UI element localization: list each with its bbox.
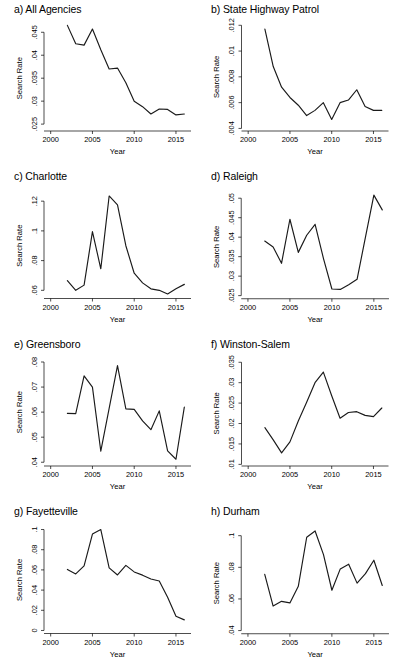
x-tick-label: 2005: [84, 135, 100, 144]
y-tick-label: .02: [228, 418, 237, 428]
x-tick-label: 2000: [240, 135, 256, 144]
y-tick-label: .008: [228, 70, 237, 84]
chart-panel-e: e) Greensboro.04.05.06.07.08200020052010…: [0, 335, 197, 502]
x-tick-label: 2000: [42, 470, 58, 479]
series-line: [67, 530, 184, 620]
x-tick-label: 2000: [240, 303, 257, 312]
x-axis-label: Year: [110, 650, 126, 659]
y-axis-label: Search Rate: [212, 226, 221, 268]
y-tick-label: .025: [227, 288, 236, 302]
y-tick-label: .12: [30, 196, 39, 206]
y-axis-label: Search Rate: [15, 225, 24, 267]
x-axis-label: Year: [110, 482, 126, 491]
x-tick-label: 2000: [240, 470, 256, 479]
y-tick-label: .04: [227, 625, 236, 635]
series-line: [67, 196, 184, 294]
x-tick-label: 2005: [84, 638, 100, 647]
x-tick-label: 2015: [168, 470, 184, 479]
series-line: [265, 29, 382, 119]
y-tick-label: .08: [30, 545, 39, 555]
x-axis-label: Year: [110, 315, 126, 324]
y-tick-label: .035: [228, 355, 237, 369]
cropped-legend-strip: [0, 661, 395, 670]
y-tick-label: .07: [30, 382, 39, 392]
y-tick-label: .05: [227, 193, 236, 203]
x-tick-label: 2010: [324, 638, 341, 647]
x-tick-label: 2005: [84, 470, 100, 479]
y-tick-label: .025: [228, 396, 237, 410]
x-tick-label: 2005: [282, 638, 299, 647]
y-tick-label: .01: [228, 459, 237, 469]
x-tick-label: 2015: [365, 135, 381, 144]
plot-area: .025.03.035.04.045.052000200520102015Yea…: [197, 167, 395, 335]
x-tick-label: 2015: [168, 638, 184, 647]
x-tick-label: 2015: [365, 470, 381, 479]
y-tick-label: .03: [227, 271, 236, 281]
y-tick-label: .06: [30, 565, 39, 575]
y-tick-label: .035: [30, 71, 39, 85]
x-tick-label: 2005: [282, 135, 298, 144]
y-tick-label: .08: [30, 255, 39, 265]
y-tick-label: .03: [30, 96, 39, 106]
plot-area: .04.06.08.12000200520102015YearSearch Ra…: [197, 502, 395, 670]
x-tick-label: 2005: [282, 303, 299, 312]
plot-area: .025.03.035.04.0452000200520102015YearSe…: [0, 0, 197, 167]
y-axis-label: Search Rate: [15, 559, 24, 601]
x-tick-label: 2015: [168, 135, 184, 144]
y-tick-label: .04: [30, 457, 39, 467]
x-axis-label: Year: [307, 147, 323, 156]
x-axis-label: Year: [307, 650, 323, 659]
x-tick-label: 2010: [324, 303, 341, 312]
chart-panel-f: f) Winston-Salem.01.015.02.025.03.035200…: [197, 335, 395, 502]
y-tick-label: .05: [30, 432, 39, 442]
y-tick-label: .04: [30, 50, 39, 60]
plot-area: .01.015.02.025.03.0352000200520102015Yea…: [197, 335, 395, 502]
chart-panel-d: d) Raleigh.025.03.035.04.045.05200020052…: [197, 167, 395, 335]
chart-panel-c: c) Charlotte.06.08.1.122000200520102015Y…: [0, 167, 197, 335]
y-tick-label: .06: [30, 285, 39, 295]
x-tick-label: 2015: [366, 303, 383, 312]
x-tick-label: 2010: [126, 638, 142, 647]
x-axis-label: Year: [307, 482, 323, 491]
y-axis-label: Search Rate: [15, 57, 24, 99]
y-tick-label: .035: [227, 249, 236, 263]
x-tick-label: 2015: [366, 638, 383, 647]
y-tick-label: .012: [228, 18, 237, 32]
plot-area: .04.05.06.07.082000200520102015YearSearc…: [0, 335, 197, 502]
x-tick-label: 2005: [84, 303, 100, 312]
y-tick-label: .06: [227, 594, 236, 604]
x-tick-label: 2010: [126, 135, 142, 144]
x-tick-label: 2015: [168, 303, 184, 312]
chart-panel-b: b) State Highway Patrol.004.006.008.01.0…: [197, 0, 395, 167]
series-line: [265, 372, 382, 453]
x-tick-label: 2000: [42, 303, 58, 312]
series-line: [67, 25, 184, 115]
y-tick-label: .04: [30, 585, 39, 595]
y-axis-label: Search Rate: [15, 391, 24, 433]
x-axis-label: Year: [307, 315, 323, 324]
y-tick-label: .06: [30, 407, 39, 417]
x-tick-label: 2000: [240, 638, 257, 647]
x-tick-label: 2000: [42, 135, 58, 144]
y-tick-label: .1: [227, 533, 236, 539]
x-tick-label: 2010: [126, 303, 142, 312]
y-tick-label: .08: [30, 357, 39, 367]
y-axis-label: Search Rate: [212, 562, 221, 604]
x-axis-label: Year: [110, 147, 126, 156]
plot-area: 0.02.04.06.08.12000200520102015YearSearc…: [0, 502, 197, 670]
y-tick-label: .04: [227, 232, 236, 242]
chart-panel-a: a) All Agencies.025.03.035.04.0452000200…: [0, 0, 197, 167]
series-line: [67, 366, 184, 460]
y-tick-label: .004: [228, 121, 237, 135]
y-axis-label: Search Rate: [213, 56, 222, 98]
y-axis-label: Search Rate: [213, 392, 222, 434]
y-tick-label: .045: [30, 25, 39, 39]
series-line: [265, 195, 383, 289]
y-tick-label: .025: [30, 117, 39, 131]
series-line: [265, 531, 383, 606]
plot-area: .06.08.1.122000200520102015YearSearch Ra…: [0, 167, 197, 335]
x-tick-label: 2010: [323, 470, 339, 479]
y-tick-label: .02: [30, 605, 39, 615]
y-tick-label: .1: [30, 526, 39, 532]
plot-area: .004.006.008.01.0122000200520102015YearS…: [197, 0, 395, 167]
